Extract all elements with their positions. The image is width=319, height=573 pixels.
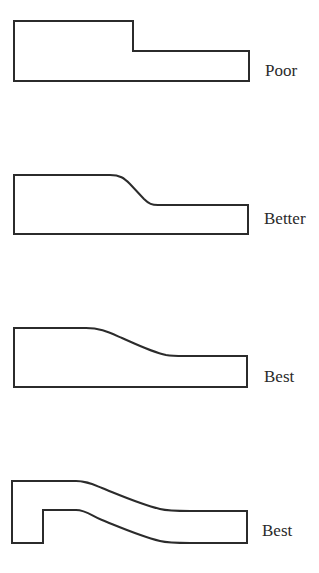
rating-label-best-1: Best (264, 368, 294, 385)
profile-best-uniform-wall (12, 481, 247, 543)
profile-better-short-transition (14, 175, 248, 234)
profile-best-gradual-transition (14, 328, 247, 387)
rating-label-best-2: Best (262, 522, 292, 539)
profile-poor-sharp-step (14, 21, 249, 81)
diagram-canvas (0, 0, 319, 573)
rating-label-better: Better (264, 210, 306, 227)
rating-label-poor: Poor (265, 62, 297, 79)
design-comparison-diagram: Poor Better Best Best (0, 0, 319, 573)
